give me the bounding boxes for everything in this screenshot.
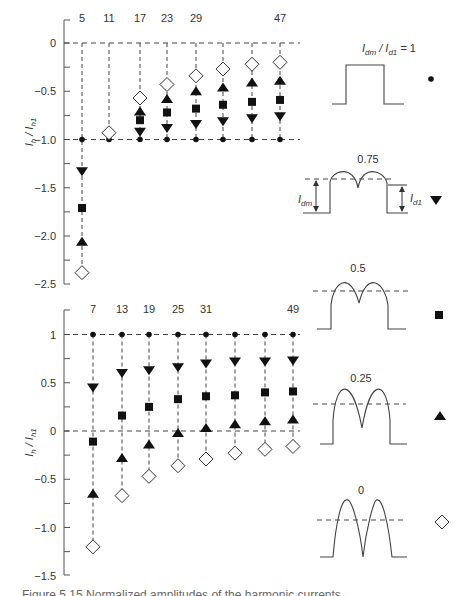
- legend-label-0.5: 0.5: [350, 262, 365, 274]
- triangle-down-marker: [246, 114, 258, 123]
- arrow-head: [399, 206, 405, 212]
- y-tick-label: −1.0: [34, 522, 56, 534]
- harmonic-order-label: 25: [172, 303, 184, 315]
- square-marker: [163, 108, 171, 116]
- square-marker: [89, 438, 97, 446]
- waveform-square: [332, 65, 404, 104]
- triangle-down-marker: [259, 358, 271, 367]
- triangle-up-marker: [246, 78, 258, 87]
- square-marker: [219, 101, 227, 109]
- id1-label: Id1: [410, 192, 422, 207]
- circle-marker: [79, 137, 85, 143]
- triangle-down-marker: [116, 369, 128, 378]
- triangle-down-marker: [200, 359, 212, 368]
- triangle-up-marker: [116, 453, 128, 462]
- triangle-up-marker: [161, 94, 173, 103]
- idm-label: Idm: [298, 193, 313, 208]
- triangle-up-marker: [134, 107, 146, 116]
- triangle-up-marker: [229, 419, 241, 428]
- y-axis-label: Ih / Ih1: [23, 428, 38, 457]
- legend-triangle-up-marker: [434, 411, 446, 420]
- diamond-open-marker: [245, 57, 259, 71]
- diamond-open-marker: [171, 459, 185, 473]
- y-tick-label: −0.5: [34, 85, 56, 97]
- square-marker: [289, 387, 297, 395]
- triangle-down-marker: [229, 358, 241, 367]
- circle-marker: [119, 332, 125, 338]
- square-marker: [192, 105, 200, 113]
- harmonic-order-label: 7: [90, 303, 96, 315]
- diamond-open-marker: [258, 442, 272, 456]
- y-tick-label: 1: [50, 329, 56, 341]
- square-marker: [145, 403, 153, 411]
- circle-marker: [146, 332, 152, 338]
- diamond-open-marker: [115, 489, 129, 503]
- square-marker: [231, 391, 239, 399]
- triangle-up-marker: [190, 86, 202, 95]
- square-marker: [261, 388, 269, 396]
- diamond-open-marker: [189, 69, 203, 83]
- circle-marker: [137, 137, 143, 143]
- diamond-open-marker: [216, 62, 230, 76]
- harmonics-chart: 0−0.5−1.0−1.5−2.0−2.5Ih / Ih151117232947…: [0, 0, 468, 596]
- y-tick-label: 0: [50, 425, 56, 437]
- harmonic-order-label: 19: [143, 303, 155, 315]
- circle-marker: [220, 137, 226, 143]
- square-marker: [202, 392, 210, 400]
- triangle-up-marker: [274, 76, 286, 85]
- triangle-up-marker: [76, 237, 88, 246]
- triangle-down-marker: [87, 384, 99, 393]
- legend-square-marker: [435, 311, 443, 319]
- y-axis-label: Ih / Ih1: [23, 118, 38, 147]
- legend-title: Idm / Id1 = 1: [362, 42, 416, 57]
- triangle-down-marker: [172, 363, 184, 372]
- triangle-up-marker: [259, 416, 271, 425]
- y-tick-label: 0: [50, 37, 56, 49]
- triangle-down-marker: [76, 167, 88, 176]
- triangle-down-marker: [143, 366, 155, 375]
- legend-triangle-down-marker: [430, 196, 442, 205]
- harmonic-order-label: 31: [200, 303, 212, 315]
- legend-circle-marker: [428, 76, 434, 82]
- y-tick-label: −2.5: [34, 278, 56, 290]
- triangle-down-marker: [161, 124, 173, 133]
- square-marker: [174, 395, 182, 403]
- circle-marker: [175, 332, 181, 338]
- legend-label-0: 0: [358, 484, 364, 496]
- circle-marker: [164, 137, 170, 143]
- square-marker: [78, 204, 86, 212]
- diamond-open-marker: [286, 439, 300, 453]
- legend-label-0.75: 0.75: [357, 153, 378, 165]
- harmonic-order-label: 5: [79, 12, 85, 24]
- square-marker: [136, 116, 144, 124]
- y-axis: [64, 20, 70, 284]
- waveform-0.75: [303, 172, 408, 213]
- chart-panel-top: 0−0.5−1.0−1.5−2.0−2.5Ih / Ih151117232947: [23, 12, 300, 290]
- diamond-open-marker: [133, 91, 147, 105]
- circle-marker: [277, 137, 283, 143]
- triangle-down-marker: [274, 112, 286, 121]
- diamond-open-marker: [199, 452, 213, 466]
- triangle-down-marker: [134, 128, 146, 137]
- waveform-0: [320, 500, 407, 557]
- legend-waveforms: Idm / Id1 = 10.75IdmId10.50.250: [298, 42, 449, 557]
- y-tick-label: 0.5: [41, 377, 56, 389]
- arrow-head: [399, 186, 405, 192]
- triangle-down-marker: [217, 117, 229, 126]
- circle-marker: [90, 332, 96, 338]
- harmonic-order-label: 17: [134, 12, 146, 24]
- circle-marker: [290, 332, 296, 338]
- y-tick-label: −2.0: [34, 230, 56, 242]
- diamond-open-marker: [142, 469, 156, 483]
- triangle-down-marker: [287, 357, 299, 366]
- legend-diamond-marker: [435, 515, 449, 529]
- circle-marker: [203, 332, 209, 338]
- circle-marker: [193, 137, 199, 143]
- diamond-open-marker: [102, 126, 116, 140]
- arrow-head: [313, 206, 319, 212]
- y-axis: [64, 310, 70, 575]
- legend-label-0.25: 0.25: [350, 372, 371, 384]
- square-marker: [118, 412, 126, 420]
- diamond-open-marker: [273, 55, 287, 69]
- diamond-open-marker: [75, 266, 89, 280]
